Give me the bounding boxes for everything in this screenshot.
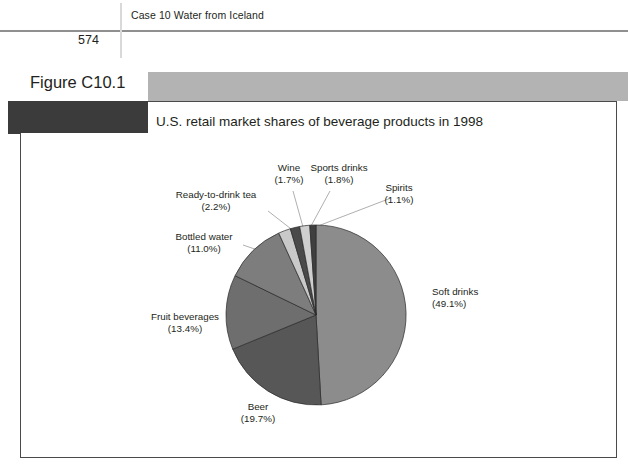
pie-slice-label: Ready-to-drink tea(2.2%) [176, 189, 257, 212]
pie-slice-label: Spirits(1.1%) [385, 182, 414, 205]
leader-line [293, 191, 303, 227]
leader-line [311, 191, 330, 226]
pie-slice-label-name: Beer [248, 401, 269, 412]
pie-slice-label-name: Bottled water [175, 231, 233, 242]
pie-slice-label: Wine(1.7%) [275, 162, 304, 185]
pie-slice-label: Sports drinks(1.8%) [310, 162, 367, 185]
pie-slice-label-value: (11.0%) [187, 243, 221, 254]
pie-slice-label-value: (19.7%) [241, 413, 275, 424]
pie-slice-label-name: Spirits [385, 182, 412, 193]
pie-slice-label-value: (13.4%) [168, 323, 202, 334]
leader-line [318, 198, 391, 226]
pie-slice-label: Soft drinks(49.1%) [432, 286, 478, 309]
pie-slice-label-name: Soft drinks [432, 286, 478, 297]
pie-slice-label-name: Fruit beverages [151, 311, 219, 322]
pie-slice-label: Fruit beverages(13.4%) [151, 311, 219, 334]
figure-dark-block-overlay [8, 101, 148, 133]
pie-slices [226, 225, 406, 405]
pie-slice-label-name: Sports drinks [310, 162, 367, 173]
pie-slice-label-value: (49.1%) [432, 298, 466, 309]
pie-slice-label-name: Wine [278, 162, 301, 173]
pie-slice [316, 225, 406, 405]
pie-slice-label-value: (1.1%) [385, 194, 414, 205]
pie-slice-label: Bottled water(11.0%) [175, 231, 233, 254]
pie-slice-label-value: (1.8%) [325, 174, 354, 185]
pie-slice-label: Beer(19.7%) [241, 401, 275, 424]
pie-slice-label-value: (2.2%) [202, 201, 231, 212]
pie-chart: Soft drinks(49.1%)Beer(19.7%)Fruit bever… [0, 0, 628, 476]
pie-slice-label-name: Ready-to-drink tea [176, 189, 257, 200]
pie-slice-label-value: (1.7%) [275, 174, 304, 185]
